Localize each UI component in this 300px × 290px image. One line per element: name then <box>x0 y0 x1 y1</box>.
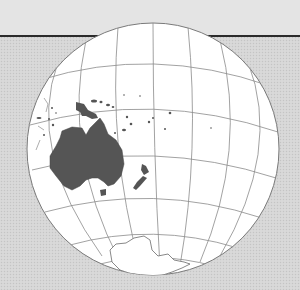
tasmania <box>100 189 106 196</box>
globe[interactable] <box>0 0 300 290</box>
